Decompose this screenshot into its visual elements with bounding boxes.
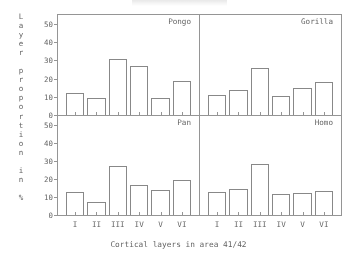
- x-tick-mark: [260, 112, 261, 115]
- x-tick-mark: [303, 112, 304, 115]
- x-tick-label: II: [234, 220, 243, 229]
- x-tick-label: VI: [319, 220, 328, 229]
- y-tick-mark: [54, 161, 57, 162]
- y-tick-label: 0: [49, 211, 53, 220]
- y-tick-mark: [54, 24, 57, 25]
- bar: [109, 59, 127, 115]
- y-tick-mark: [54, 143, 57, 144]
- x-tick-label: III: [111, 220, 125, 229]
- x-tick-label: VI: [177, 220, 186, 229]
- x-tick-mark: [281, 212, 282, 215]
- y-axis-label-char: L: [19, 12, 24, 21]
- x-tick-mark: [324, 112, 325, 115]
- y-tick-label: 50: [44, 20, 53, 29]
- y-axis-label-char: e: [19, 39, 24, 48]
- x-tick-mark: [161, 112, 162, 115]
- x-tick-mark: [217, 112, 218, 115]
- y-axis-label-char: a: [19, 21, 24, 30]
- x-tick-label: I: [73, 220, 78, 229]
- x-tick-mark: [75, 112, 76, 115]
- bar: [173, 81, 191, 115]
- y-axis-label-char: o: [19, 102, 24, 111]
- x-tick-mark: [303, 212, 304, 215]
- y-tick-label: 10: [44, 92, 53, 101]
- y-axis-label-char: n: [19, 175, 24, 184]
- y-tick-label: 10: [44, 193, 53, 202]
- y-axis-label-char: o: [19, 84, 24, 93]
- y-axis-label-char: i: [19, 130, 24, 139]
- bar: [293, 88, 311, 115]
- x-tick-mark: [281, 112, 282, 115]
- panel-pan: Pan: [58, 116, 199, 215]
- y-tick-mark: [54, 215, 57, 216]
- bar-group: [58, 15, 199, 115]
- x-tick-label: II: [92, 220, 101, 229]
- y-axis-label-char: r: [19, 75, 24, 84]
- y-tick-mark: [54, 179, 57, 180]
- x-tick-mark: [96, 112, 97, 115]
- y-tick-mark: [54, 60, 57, 61]
- y-axis-label-char: o: [19, 139, 24, 148]
- x-tick-label: IV: [135, 220, 144, 229]
- y-axis-label-char: t: [19, 121, 24, 130]
- x-tick-label: I: [215, 220, 220, 229]
- y-tick-label: 30: [44, 157, 53, 166]
- y-axis-label-char: p: [19, 66, 24, 75]
- x-tick-mark: [238, 212, 239, 215]
- bar: [130, 66, 148, 115]
- y-axis-ticks-top: 01020304050: [31, 15, 53, 115]
- panel-homo: Homo: [200, 116, 341, 215]
- bar: [173, 180, 191, 215]
- x-tick-mark: [118, 112, 119, 115]
- x-tick-mark: [182, 212, 183, 215]
- y-tick-label: 20: [44, 175, 53, 184]
- bar-group: [200, 15, 341, 115]
- y-axis-label-char: p: [19, 93, 24, 102]
- x-tick-label: V: [158, 220, 163, 229]
- x-tick-mark: [161, 212, 162, 215]
- y-axis-ticks-bottom: 01020304050: [31, 116, 53, 215]
- y-tick-mark: [54, 115, 57, 116]
- bar: [130, 185, 148, 215]
- x-tick-mark: [118, 212, 119, 215]
- bar: [251, 68, 269, 115]
- x-tick-label: IV: [277, 220, 286, 229]
- x-tick-mark: [182, 112, 183, 115]
- x-axis-caption: Cortical layers in area 41/42: [0, 240, 357, 249]
- y-tick-label: 40: [44, 38, 53, 47]
- y-tick-label: 30: [44, 56, 53, 65]
- x-tick-mark: [324, 212, 325, 215]
- y-axis-label-char: y: [19, 30, 24, 39]
- y-tick-label: 50: [44, 121, 53, 130]
- y-axis-label-char: %: [19, 193, 24, 202]
- bar-group: [200, 116, 341, 215]
- figure-cortical-layer-proportions: Layerxproportionxinx% 01020304050 010203…: [0, 0, 357, 264]
- y-tick-label: 40: [44, 139, 53, 148]
- bar: [251, 164, 269, 215]
- y-axis-label-char: r: [19, 112, 24, 121]
- y-tick-label: 20: [44, 74, 53, 83]
- y-tick-mark: [54, 97, 57, 98]
- y-tick-mark: [54, 197, 57, 198]
- y-axis-label: Layerxproportionxinx%: [14, 12, 28, 234]
- bar: [109, 166, 127, 216]
- panel-gorilla: Gorilla: [200, 15, 341, 115]
- y-tick-mark: [54, 79, 57, 80]
- x-tick-mark: [139, 212, 140, 215]
- x-tick-mark: [139, 112, 140, 115]
- y-tick-mark: [54, 42, 57, 43]
- x-tick-mark: [96, 212, 97, 215]
- y-tick-mark: [54, 125, 57, 126]
- x-tick-mark: [75, 212, 76, 215]
- bar-group: [58, 116, 199, 215]
- x-tick-mark: [260, 212, 261, 215]
- x-tick-mark: [238, 112, 239, 115]
- x-tick-label: III: [253, 220, 267, 229]
- y-axis-label-char: n: [19, 148, 24, 157]
- x-tick-mark: [217, 212, 218, 215]
- y-axis-label-char: i: [19, 166, 24, 175]
- x-tick-label: V: [300, 220, 305, 229]
- bar: [315, 82, 333, 115]
- panel-pongo: Pongo: [58, 15, 199, 115]
- y-axis-label-char: r: [19, 48, 24, 57]
